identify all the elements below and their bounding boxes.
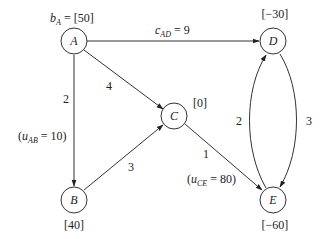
edge-e-to-d-cost: 2	[236, 114, 242, 128]
edge-d-to-e	[280, 54, 297, 187]
node-c: C	[161, 103, 187, 129]
edge-e-to-d	[250, 55, 267, 188]
node-e-label: E	[268, 193, 277, 207]
edge-b-to-c	[84, 125, 163, 190]
node-b-supply: [40]	[64, 218, 84, 232]
edge-a-to-c	[84, 50, 163, 109]
edge-a-to-c-cost: 4	[106, 79, 112, 93]
node-e: E	[260, 187, 286, 213]
network-flow-diagram: A B C D E bA = [50] [40] [0] [−30] [−60]…	[0, 0, 326, 239]
edge-a-to-b-capacity: (uAB = 10)	[18, 129, 67, 145]
node-a: A	[61, 28, 87, 54]
edge-d-to-e-cost: 3	[306, 114, 312, 128]
edge-c-to-e-capacity: (uCE = 80)	[187, 172, 236, 188]
node-e-supply: [−60]	[262, 218, 289, 232]
edge-a-to-d-cost: cAD = 9	[155, 23, 190, 39]
node-a-supply: bA = [50]	[50, 11, 94, 27]
edge-c-to-e-cost: 1	[203, 147, 209, 161]
node-d: D	[260, 28, 286, 54]
edge-a-to-b-cost: 2	[63, 92, 69, 106]
node-b: B	[61, 187, 87, 213]
node-d-label: D	[268, 34, 278, 48]
node-c-label: C	[170, 109, 179, 123]
node-d-supply: [−30]	[262, 7, 289, 21]
node-c-supply: [0]	[193, 96, 207, 110]
node-b-label: B	[70, 193, 78, 207]
node-a-label: A	[69, 34, 78, 48]
edge-b-to-c-cost: 3	[128, 160, 134, 174]
